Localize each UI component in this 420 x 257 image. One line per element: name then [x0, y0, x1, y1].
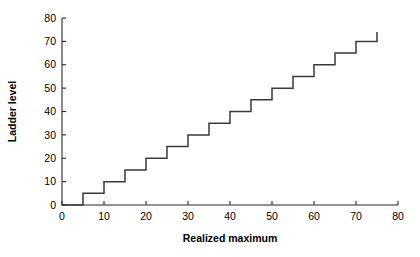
y-tick-label: 0 [50, 199, 56, 211]
step-chart: 01020304050607080 01020304050607080 Real… [0, 0, 420, 257]
x-tick-label: 0 [59, 210, 65, 222]
y-tick-label: 80 [44, 12, 56, 24]
y-tick-label: 50 [44, 82, 56, 94]
chart-figure: 01020304050607080 01020304050607080 Real… [0, 0, 420, 257]
y-tick-label: 10 [44, 175, 56, 187]
y-tick-label: 30 [44, 129, 56, 141]
y-tick-label: 60 [44, 58, 56, 70]
y-tick-label: 20 [44, 152, 56, 164]
y-axis-title: Ladder level [6, 81, 18, 142]
x-tick-label: 10 [98, 210, 110, 222]
x-axis-title: Realized maximum [183, 232, 278, 244]
x-tick-label: 40 [224, 210, 236, 222]
x-tick-label: 50 [266, 210, 278, 222]
y-tick-label: 40 [44, 105, 56, 117]
x-tick-label: 30 [182, 210, 194, 222]
x-tick-label: 80 [392, 210, 404, 222]
ladder-level-step-line [62, 32, 377, 205]
x-axis-tick-labels: 01020304050607080 [59, 210, 404, 222]
x-tick-label: 70 [350, 210, 362, 222]
x-tick-label: 20 [140, 210, 152, 222]
y-axis-tick-labels: 01020304050607080 [44, 12, 56, 211]
x-tick-label: 60 [308, 210, 320, 222]
y-axis-ticks [62, 18, 66, 205]
y-tick-label: 70 [44, 35, 56, 47]
x-axis-ticks [62, 201, 398, 205]
